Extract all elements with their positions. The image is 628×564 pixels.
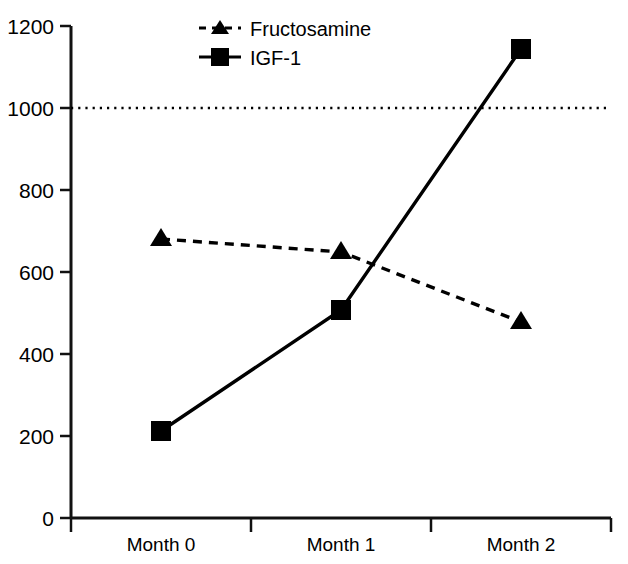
y-tick-label-400: 400 bbox=[19, 343, 54, 366]
chart-canvas: 1200 1000 800 600 400 200 0 Month 0 Mont… bbox=[0, 0, 628, 564]
y-tick-label-600: 600 bbox=[19, 261, 54, 284]
igf-1-point-month-0 bbox=[151, 421, 171, 441]
x-axis-tick-labels: Month 0 Month 1 Month 2 bbox=[127, 534, 556, 555]
legend-label-fructosamine: Fructosamine bbox=[250, 18, 371, 40]
y-tick-label-1000: 1000 bbox=[7, 97, 54, 120]
y-tick-label-200: 200 bbox=[19, 425, 54, 448]
y-tick-label-1200: 1200 bbox=[7, 15, 54, 38]
chart-background bbox=[0, 0, 628, 564]
igf-1-point-month-1 bbox=[331, 300, 351, 320]
legend-label-igf-1: IGF-1 bbox=[250, 47, 301, 69]
x-tick-label-month-2: Month 2 bbox=[487, 534, 556, 555]
legend-square-marker-icon bbox=[211, 48, 229, 66]
legend-item-igf-1[interactable]: IGF-1 bbox=[199, 47, 301, 69]
line-chart: 1200 1000 800 600 400 200 0 Month 0 Mont… bbox=[0, 0, 628, 564]
y-tick-label-0: 0 bbox=[42, 507, 54, 530]
igf-1-point-month-2 bbox=[511, 39, 531, 59]
x-tick-label-month-0: Month 0 bbox=[127, 534, 196, 555]
x-tick-label-month-1: Month 1 bbox=[307, 534, 376, 555]
y-tick-label-800: 800 bbox=[19, 179, 54, 202]
